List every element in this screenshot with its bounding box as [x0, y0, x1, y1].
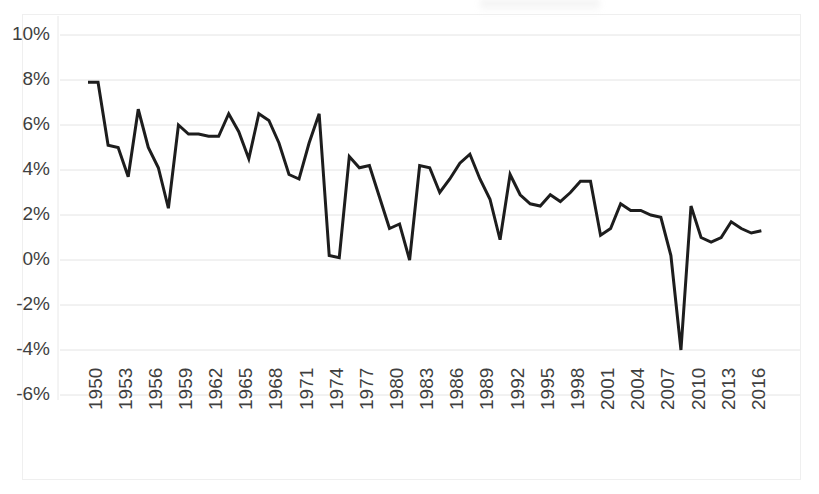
x-axis-tick-label: 2016 [748, 368, 769, 410]
y-axis-tick-label: -4% [16, 338, 50, 359]
x-axis-tick-label: 1992 [507, 368, 528, 410]
x-axis-tick-label: 2001 [597, 368, 618, 410]
x-axis-tick-label: 2013 [718, 368, 739, 410]
x-axis-tick-label: 1965 [235, 368, 256, 410]
x-axis-tick-label: 1950 [85, 368, 106, 410]
x-axis-tick-label: 2004 [627, 367, 648, 410]
y-axis-tick-label: 2% [23, 203, 51, 224]
x-axis-tick-label: 1980 [386, 368, 407, 410]
chart-container: 10%8%6%4%2%0%-2%-4%-6% 19501953195619591… [0, 0, 819, 494]
x-axis-tick-label: 1989 [476, 368, 497, 410]
x-axis-tick-label: 2007 [657, 368, 678, 410]
y-axis-tick-label: 8% [23, 68, 51, 89]
x-axis-tick-label: 1971 [296, 368, 317, 410]
x-axis-tick-label: 1974 [326, 367, 347, 410]
data-series-line [88, 82, 761, 350]
x-axis-tick-label: 1968 [265, 368, 286, 410]
x-axis-tick-label: 1953 [115, 368, 136, 410]
x-axis-tick-labels: 1950195319561959196219651968197119741977… [85, 367, 769, 410]
y-axis-tick-label: -2% [16, 293, 50, 314]
y-axis-tick-label: 6% [23, 113, 51, 134]
x-axis-tick-label: 1959 [175, 368, 196, 410]
y-axis-tick-labels: 10%8%6%4%2%0%-2%-4%-6% [12, 23, 50, 404]
x-axis-tick-label: 1986 [446, 368, 467, 410]
y-axis-tick-label: 10% [12, 23, 50, 44]
x-axis-tick-label: 1998 [567, 368, 588, 410]
x-axis-tick-label: 2010 [688, 368, 709, 410]
y-axis-tick-label: 0% [23, 248, 51, 269]
x-axis-tick-label: 1983 [416, 368, 437, 410]
x-axis-tick-label: 1962 [205, 368, 226, 410]
x-axis-tick-label: 1995 [537, 368, 558, 410]
x-axis-tick-label: 1977 [356, 368, 377, 410]
y-axis-tick-label: -6% [16, 383, 50, 404]
x-axis-tick-label: 1956 [145, 368, 166, 410]
line-chart-svg: 10%8%6%4%2%0%-2%-4%-6% 19501953195619591… [0, 0, 819, 494]
y-axis-tick-label: 4% [23, 158, 51, 179]
